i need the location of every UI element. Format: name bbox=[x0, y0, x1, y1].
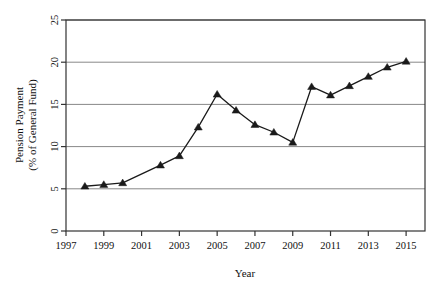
x-axis-tick-label: 2007 bbox=[244, 240, 265, 251]
x-axis: 1997199920012003200520072009201120132015 bbox=[56, 231, 417, 251]
y-axis-tick-label: 0 bbox=[49, 228, 60, 233]
x-axis-tick-label: 2015 bbox=[396, 240, 417, 251]
y-axis-tick-label: 5 bbox=[49, 186, 60, 191]
y-axis-tick-label: 15 bbox=[49, 99, 60, 110]
chart-figure: 0510152025 19971999200120032005200720092… bbox=[0, 0, 444, 286]
x-axis-tick-label: 2005 bbox=[207, 240, 228, 251]
x-axis-tick-label: 2011 bbox=[320, 240, 341, 251]
y-axis-tick-label: 20 bbox=[49, 57, 60, 67]
y-axis-title-line-1: Pension Payment bbox=[13, 87, 25, 163]
x-axis-tick-label: 1999 bbox=[93, 240, 114, 251]
x-axis-tick-label: 2003 bbox=[169, 240, 190, 251]
y-axis-tick-label: 10 bbox=[49, 141, 60, 152]
y-axis-title-line-2: (% of General Fund) bbox=[26, 79, 39, 171]
y-axis: 0510152025 bbox=[49, 15, 66, 234]
pension-payment-line-chart: 0510152025 19971999200120032005200720092… bbox=[0, 0, 444, 286]
y-axis-tick-label: 25 bbox=[49, 15, 60, 26]
plot-background bbox=[66, 20, 425, 231]
x-axis-tick-label: 2009 bbox=[282, 240, 303, 251]
x-axis-tick-label: 2013 bbox=[358, 240, 379, 251]
x-axis-title: Year bbox=[235, 267, 256, 279]
x-axis-tick-label: 1997 bbox=[56, 240, 77, 251]
x-axis-tick-label: 2001 bbox=[131, 240, 152, 251]
